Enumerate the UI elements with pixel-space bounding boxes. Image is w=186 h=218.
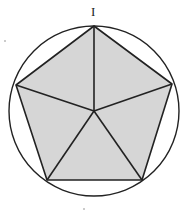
- speck-mark: [83, 208, 85, 210]
- vertex-label: I: [91, 4, 95, 20]
- pentagon-diagram: [0, 0, 186, 218]
- speck-mark: [4, 40, 6, 42]
